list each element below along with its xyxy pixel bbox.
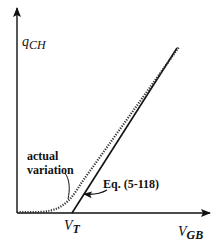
charge-vs-gate-voltage-diagram: qCH VGB VT actual variation Eq. (5-118) xyxy=(0,0,218,243)
actual-variation-label-line1: actual xyxy=(27,149,59,163)
y-axis-label: qCH xyxy=(22,34,47,52)
x-axis-label: VGB xyxy=(178,224,203,242)
threshold-label: VT xyxy=(64,218,81,236)
equation-label: Eq. (5-118) xyxy=(103,177,159,191)
actual-variation-label-line2: variation xyxy=(27,163,74,177)
